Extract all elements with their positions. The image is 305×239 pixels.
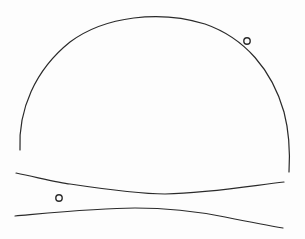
dome-circle (244, 38, 250, 44)
line-drawing (0, 0, 305, 239)
band-circle (56, 195, 62, 201)
lower-band-line (15, 208, 283, 228)
sketch-canvas (0, 0, 305, 239)
upper-band-line (16, 173, 284, 194)
dome-arc (20, 17, 290, 172)
